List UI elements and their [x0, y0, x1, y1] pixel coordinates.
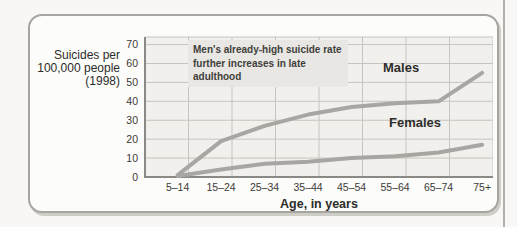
males-series-label: Males: [383, 60, 419, 75]
y-tick-label: 50: [126, 76, 138, 88]
x-tick-label: 45–54: [337, 181, 366, 193]
x-axis-title: Age, in years: [171, 197, 467, 211]
females-series-label: Females: [389, 115, 441, 130]
scanned-page: 0102030405060705–1415–2425–3435–4445–545…: [0, 0, 517, 227]
y-tick-label: 10: [126, 152, 138, 164]
x-tick-label: 15–24: [207, 181, 236, 193]
y-tick-label: 20: [126, 133, 138, 145]
y-tick-label: 0: [132, 171, 138, 183]
y-tick-label: 40: [126, 95, 138, 107]
x-tick-label: 25–34: [250, 181, 279, 193]
y-tick-label: 30: [126, 114, 138, 126]
y-tick-label: 60: [126, 57, 138, 69]
figure-card: 0102030405060705–1415–2425–3435–4445–545…: [28, 14, 499, 213]
x-tick-label: 35–44: [294, 181, 323, 193]
x-tick-label: 75+: [473, 181, 491, 193]
x-tick-label: 55–64: [381, 181, 410, 193]
x-tick-label: 5–14: [166, 181, 190, 193]
annotation-note: Men's already-high suicide rate further …: [188, 40, 348, 87]
y-tick-label: 70: [126, 38, 138, 50]
y-axis-label: Suicides per 100,000 people (1998): [32, 49, 120, 88]
y-axis-label-line-3: (1998): [32, 75, 120, 88]
x-tick-label: 65–74: [424, 181, 453, 193]
page-right-rule: [503, 0, 505, 227]
